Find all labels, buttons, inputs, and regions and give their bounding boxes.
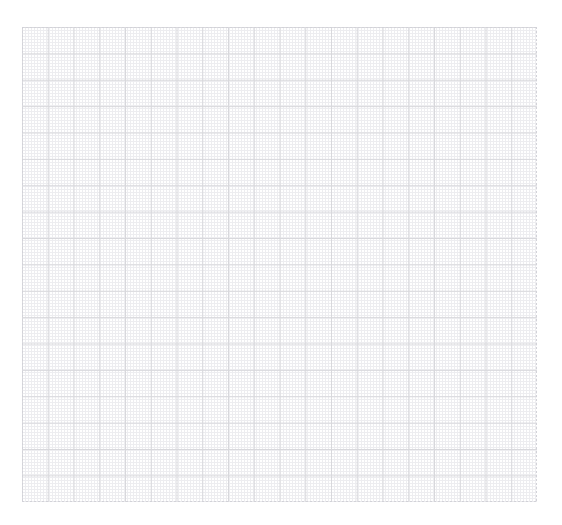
plot-frame-left-edge [22,27,23,502]
plot-grid-area [22,27,537,502]
screenshot-canvas [0,0,562,525]
plot-frame-top-edge [22,27,537,28]
major-gridlines [22,27,537,502]
plot-frame-bottom-edge [22,501,537,502]
plot-frame-right-edge [536,27,537,502]
